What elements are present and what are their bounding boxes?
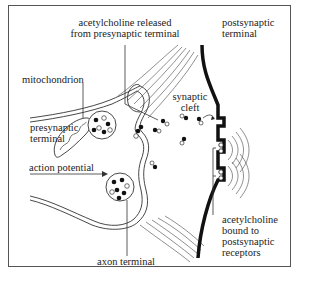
- signal-waves: [228, 128, 249, 198]
- label-line: postsynaptic: [222, 236, 278, 247]
- label-line: postsynaptic: [222, 17, 275, 28]
- label-line: from presynaptic terminal: [60, 28, 190, 39]
- vesicle-2: [106, 173, 134, 201]
- label-line: acetylcholine released: [60, 17, 190, 28]
- label-line: terminal: [30, 133, 78, 144]
- label-line: terminal: [222, 28, 275, 39]
- action-potential-arrowhead: [102, 171, 108, 177]
- label-synaptic-cleft: synaptic cleft: [165, 91, 215, 113]
- label-ach-released: acetylcholine released from presynaptic …: [60, 17, 190, 39]
- released-acetylcholine: [150, 114, 203, 169]
- label-line: bound to: [222, 225, 278, 236]
- label-action-potential: action potential: [29, 162, 94, 173]
- label-line: synaptic: [165, 91, 215, 102]
- label-postsynaptic-terminal: postsynaptic terminal: [222, 17, 275, 39]
- label-presynaptic-terminal: presynaptic terminal: [30, 122, 78, 144]
- label-line: acetylcholine: [222, 214, 278, 225]
- label-line: cleft: [165, 102, 215, 113]
- label-line: presynaptic: [30, 122, 78, 133]
- vesicle-1: [88, 111, 116, 139]
- label-axon-terminal: axon terminal: [97, 256, 155, 267]
- label-mitochondrion: mitochondrion: [22, 74, 84, 85]
- label-ach-bound: acetylcholine bound to postsynaptic rece…: [222, 214, 278, 258]
- label-line: receptors: [222, 247, 278, 258]
